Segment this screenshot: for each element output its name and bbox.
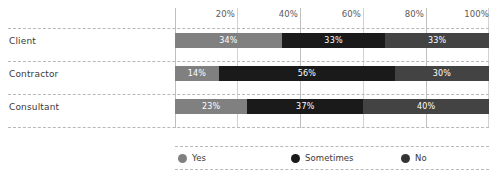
category-label-client: Client	[9, 36, 36, 46]
bar-consultant: 23% 37% 40%	[175, 99, 489, 114]
x-axis-tick-labels: 20% 40% 60% 80% 100%	[0, 8, 500, 27]
bar-segment-consultant-sometimes: 37%	[247, 99, 363, 114]
stacked-bar-chart: 20% 40% 60% 80% 100% Client Contractor C…	[0, 0, 500, 179]
tick-label-80: 80%	[405, 9, 424, 19]
row-separator-bottom	[8, 127, 489, 128]
bar-segment-client-yes: 34%	[175, 33, 282, 48]
bar-contractor: 14% 56% 30%	[175, 66, 489, 81]
bar-segment-client-no: 33%	[385, 33, 489, 48]
bar-segment-contractor-no: 30%	[395, 66, 489, 81]
tick-label-100: 100%	[464, 9, 489, 19]
legend-swatch-no-icon	[401, 154, 410, 163]
tick-label-40: 40%	[279, 9, 298, 19]
bar-segment-contractor-yes: 14%	[175, 66, 219, 81]
legend-item-yes[interactable]: Yes	[178, 147, 206, 169]
bar-segment-consultant-yes: 23%	[175, 99, 247, 114]
category-label-consultant: Consultant	[9, 102, 59, 112]
bar-segment-contractor-sometimes: 56%	[219, 66, 395, 81]
tick-label-60: 60%	[342, 9, 361, 19]
legend-swatch-yes-icon	[178, 154, 187, 163]
legend-label-no: No	[415, 153, 427, 163]
category-label-contractor: Contractor	[9, 69, 58, 79]
legend-item-no[interactable]: No	[401, 147, 427, 169]
chart-legend: Yes Sometimes No	[175, 146, 489, 170]
tick-label-20: 20%	[216, 9, 235, 19]
row-separator-top	[8, 28, 489, 29]
row-separator-2	[8, 94, 489, 95]
legend-label-yes: Yes	[192, 153, 206, 163]
legend-swatch-sometimes-icon	[291, 154, 300, 163]
legend-item-sometimes[interactable]: Sometimes	[291, 147, 354, 169]
bar-segment-client-sometimes: 33%	[282, 33, 386, 48]
legend-label-sometimes: Sometimes	[305, 153, 354, 163]
row-separator-1	[8, 61, 489, 62]
bar-segment-consultant-no: 40%	[363, 99, 489, 114]
bar-client: 34% 33% 33%	[175, 33, 489, 48]
